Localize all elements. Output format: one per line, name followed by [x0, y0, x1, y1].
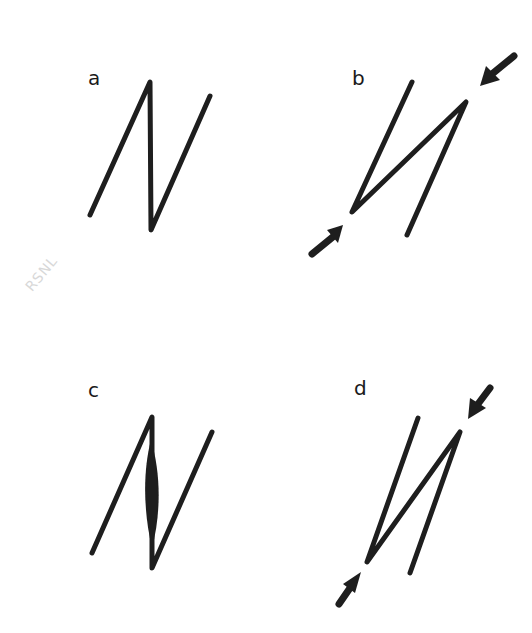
panel-b-arrow-top-icon	[480, 56, 514, 86]
panel-d-fold	[367, 418, 460, 573]
panel-c-fold	[92, 417, 212, 568]
panel-b-fold	[352, 82, 466, 235]
panel-d-arrow-top-icon	[468, 388, 490, 419]
panel-c-lens	[145, 440, 159, 548]
panel-d-arrow-bottom-icon	[339, 572, 361, 604]
fold-diagram	[0, 0, 532, 633]
panel-a-fold	[90, 82, 210, 230]
panel-b-arrow-bottom-icon	[312, 225, 343, 254]
